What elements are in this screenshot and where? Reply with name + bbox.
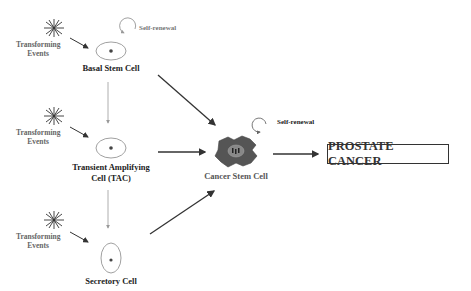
starburst-icon [44,211,64,229]
basal-to-cancer-arrow [158,75,215,125]
transforming-events-label: Transforming Events [16,128,60,146]
label-line: Cell (TAC) [56,173,166,184]
transform-arrow [70,232,88,242]
transforming-events-label: Transforming Events [16,232,60,250]
tac-cell-label: Transient Amplifying Cell (TAC) [56,162,166,184]
transforming-events-label: Transforming Events [16,40,60,58]
basal-stem-cell-label: Basal Stem Cell [66,63,156,74]
label-line: Transient Amplifying [56,162,166,173]
starburst-icon [44,107,64,125]
prostate-cancer-box: PROSTATE CANCER [327,144,449,164]
self-renewal-loop-icon [252,118,266,132]
self-renewal-loop-icon [120,18,136,33]
label-line: Transforming [16,232,60,241]
label-line: Transforming [16,40,60,49]
secretory-cell-icon [101,243,121,273]
cancer-stem-cell-label: Cancer Stem Cell [196,171,276,181]
transform-arrow [70,127,88,137]
label-line: Events [16,137,60,146]
secretory-to-cancer-arrow [150,191,214,234]
nucleus-icon [109,258,112,261]
self-renewal-label: Self-renewal [139,24,176,32]
nucleus-icon [109,49,113,53]
secretory-cell-label: Secretory Cell [66,276,156,287]
transform-arrow [70,38,88,48]
starburst-icon [44,19,64,37]
label-line: Events [16,241,60,250]
label-line: Events [16,49,60,58]
self-renewal-label: Self-renewal [277,118,314,126]
label-line: Transforming [16,128,60,137]
nucleus-icon [109,146,113,150]
